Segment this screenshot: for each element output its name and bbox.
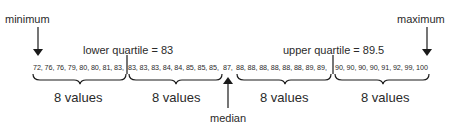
brace-group-4-icon	[335, 74, 429, 84]
minimum-arrowhead-icon	[33, 49, 43, 56]
brace-group-3-icon	[237, 74, 331, 84]
brace-group-1-icon	[33, 74, 126, 84]
brace-group-2-icon	[129, 74, 222, 84]
maximum-arrowhead-icon	[422, 49, 432, 56]
diagram-graphics	[0, 0, 463, 137]
median-arrowhead-icon	[223, 77, 233, 84]
